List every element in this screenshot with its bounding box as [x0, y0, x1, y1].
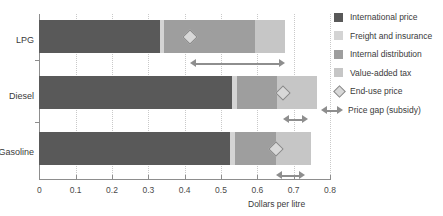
- price-gap-arrow: [283, 115, 308, 124]
- y-tick-2: [35, 122, 39, 123]
- legend-label: Internal distribution: [350, 50, 422, 59]
- price-gap-arrow: [190, 59, 285, 68]
- x-axis-title: Dollars per litre: [248, 199, 305, 209]
- x-tick-label: 0.3: [142, 185, 154, 195]
- legend-swatch: [334, 68, 343, 77]
- x-tick-mark: [148, 175, 149, 180]
- bar-segment: [237, 76, 277, 109]
- legend-label: End-use price: [350, 87, 402, 96]
- x-tick-mark: [221, 175, 222, 180]
- x-tick-label: 0.6: [251, 185, 263, 195]
- x-tick-mark: [76, 175, 77, 180]
- arrow-line: [280, 175, 301, 177]
- bar-segment: [39, 76, 232, 109]
- x-tick-mark: [39, 175, 40, 180]
- legend-item[interactable]: Freight and insurance: [334, 27, 443, 46]
- arrow-line: [194, 63, 281, 65]
- legend-label: Freight and insurance: [350, 32, 432, 41]
- bar-segment: [255, 20, 285, 53]
- x-tick-label: 0.4: [179, 185, 191, 195]
- legend-item[interactable]: Value-added tax: [334, 64, 443, 83]
- x-tick-label: 0.8: [324, 185, 336, 195]
- x-tick-mark: [257, 175, 258, 180]
- legend-label: Value-added tax: [350, 69, 411, 78]
- legend-label: International price: [350, 13, 418, 22]
- legend-swatch: [334, 31, 343, 40]
- bar-segment: [164, 20, 254, 53]
- x-tick-label: 0.2: [106, 185, 118, 195]
- x-tick-mark: [185, 175, 186, 180]
- bar-segment: [39, 20, 160, 53]
- y-tick-1: [35, 60, 39, 61]
- legend-item[interactable]: Price gap (subsidy): [334, 101, 443, 121]
- legend-diamond-icon: [334, 87, 343, 96]
- bar-segment: [39, 132, 230, 165]
- x-tick-label: 0.7: [288, 185, 300, 195]
- legend-swatch: [334, 13, 343, 22]
- bar-row: [0, 132, 443, 165]
- x-tick-mark: [112, 175, 113, 180]
- legend-swatch: [334, 50, 343, 59]
- x-tick-label: 0.5: [215, 185, 227, 195]
- legend-label: Price gap (subsidy): [348, 106, 421, 115]
- legend-item[interactable]: International price: [334, 8, 443, 27]
- x-tick-label: 0: [37, 185, 42, 195]
- arrow-head-right-icon: [279, 59, 285, 67]
- chart-legend: International priceFreight and insurance…: [334, 8, 443, 121]
- price-gap-arrow: [276, 171, 305, 180]
- arrow-head-right-icon: [302, 115, 308, 123]
- x-tick-mark: [330, 175, 331, 180]
- legend-double-arrow-icon: [321, 106, 343, 115]
- legend-item[interactable]: End-use price: [334, 82, 443, 101]
- legend-item[interactable]: Internal distribution: [334, 45, 443, 64]
- arrow-head-right-icon: [299, 171, 305, 179]
- x-tick-label: 0.1: [70, 185, 82, 195]
- stacked-bar-chart: 00.10.20.30.40.50.60.70.8 LPG Diesel Gas…: [0, 0, 443, 216]
